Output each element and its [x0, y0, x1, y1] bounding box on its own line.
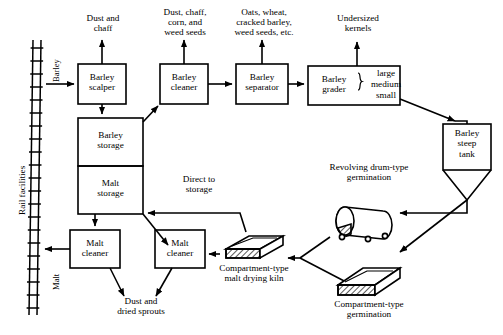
grader-brace [358, 73, 362, 90]
direct-to-storage-label: Direct to storage [168, 175, 230, 195]
label-malt-storage: Malt storage [78, 178, 143, 199]
grader-grade-medium: medium [366, 80, 406, 90]
arrow-grader-to-steep-tank [400, 99, 455, 121]
diagram-artwork [0, 0, 503, 335]
flow-diagram-canvas: Rail facilities Barley Malt Dust and cha… [0, 0, 503, 335]
label-malt-cleaner-left: Malt cleaner [70, 238, 120, 259]
label-malt-cleaner-right: Malt cleaner [155, 238, 205, 259]
separator-waste-label: Oats, wheat, cracked barley, weed seeds,… [222, 8, 306, 38]
grader-waste-label: Undersized kernels [323, 14, 393, 34]
arrow-steeptank-to-compartment [400, 200, 467, 252]
label-barley-scalper: Barley scalper [78, 72, 126, 93]
label-barley-cleaner: Barley cleaner [160, 72, 208, 93]
arrow-drum-to-kiln [300, 237, 330, 258]
malt-cleaner-waste-label: Dust and dried sprouts [98, 297, 184, 317]
arrow-cleaner-left-waste [110, 268, 124, 296]
label-barley-steep-tank: Barley steep tank [443, 128, 491, 159]
malt-drying-kiln-icon [226, 236, 283, 258]
arrow-direct-to-storage [148, 213, 246, 232]
grader-grade-large: large [366, 69, 406, 79]
rail-facilities-label: Rail facilities [18, 166, 28, 215]
scalper-waste-label: Dust and chaff [72, 14, 134, 34]
revolving-drum-icon [336, 207, 392, 242]
grader-grade-small: small [366, 91, 406, 101]
compartment-germination-caption: Compartment-type germination [319, 300, 419, 320]
compartment-germination-icon [338, 268, 400, 295]
cleaner-waste-label: Dust, chaff, corn, and weed seeds [146, 8, 224, 38]
label-barley-storage: Barley storage [78, 130, 143, 151]
rail-track-icon [27, 40, 44, 315]
malt-drying-kiln-caption: Compartment-type malt drying kiln [204, 264, 304, 284]
label-barley-separator: Barley separator [236, 72, 288, 93]
label-barley-grader: Barley grader [310, 74, 358, 95]
revolving-drum-caption: Revolving drum-type germination [317, 163, 421, 183]
arrow-steeptank-to-drum [400, 200, 467, 213]
rail-inbound-barley-label: Barley [52, 59, 61, 82]
arrow-storage-to-cleaner [143, 106, 158, 122]
arrow-compartment-to-kiln [300, 258, 348, 283]
rail-outbound-malt-label: Malt [52, 274, 61, 290]
arrow-cleaner-right-waste [156, 268, 172, 296]
